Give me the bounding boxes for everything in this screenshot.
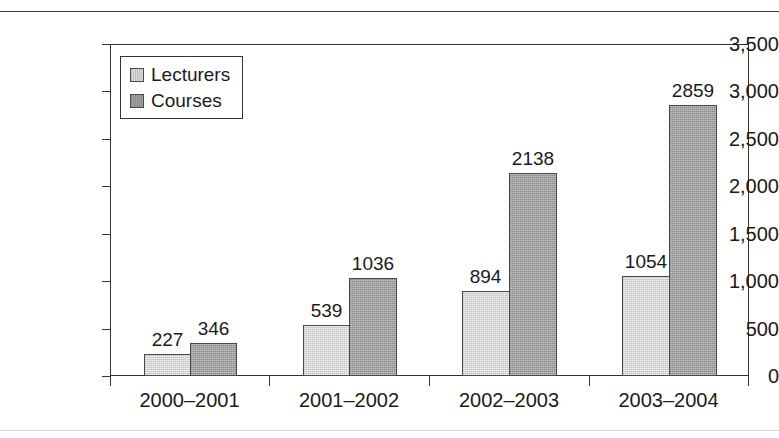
x-tick-mark-4 <box>748 376 749 386</box>
bar-courses-2002-2003[interactable] <box>509 173 557 376</box>
bar-value-lecturers-2003-2004: 1054 <box>615 252 677 272</box>
y-tick-mark-3500 <box>102 44 110 45</box>
legend-item-courses[interactable]: Courses <box>130 88 242 114</box>
chart-legend: Lecturers Courses <box>120 56 243 119</box>
bar-value-lecturers-2000-2001: 227 <box>142 330 193 350</box>
bar-value-lecturers-2001-2002: 539 <box>301 301 352 321</box>
x-axis-label-2002-2003: 2002–2003 <box>429 388 589 412</box>
y-tick-mark-500 <box>102 329 110 330</box>
y-tick-mark-2500 <box>102 139 110 140</box>
y-tick-mark-0 <box>102 376 110 377</box>
y-tick-mark-2000 <box>102 186 110 187</box>
y-tick-mark-1000 <box>102 281 110 282</box>
bar-lecturers-2002-2003[interactable] <box>462 291 510 376</box>
legend-label-lecturers: Lecturers <box>151 65 230 85</box>
figure-page: 3,500 3,000 2,500 2,000 1,500 1,000 500 … <box>0 0 779 438</box>
x-axis-label-2003-2004: 2003–2004 <box>589 388 748 412</box>
bar-lecturers-2003-2004[interactable] <box>622 276 670 376</box>
x-tick-mark-1 <box>269 376 270 386</box>
x-tick-mark-2 <box>429 376 430 386</box>
x-tick-mark-0 <box>110 376 111 386</box>
bar-lecturers-2000-2001[interactable] <box>144 354 191 376</box>
x-axis-label-2001-2002: 2001–2002 <box>269 388 429 412</box>
legend-item-lecturers[interactable]: Lecturers <box>130 62 242 88</box>
bar-lecturers-2001-2002[interactable] <box>303 325 350 376</box>
bar-value-courses-2002-2003: 2138 <box>502 149 564 169</box>
x-axis-label-2000-2001: 2000–2001 <box>110 388 269 412</box>
x-tick-mark-3 <box>589 376 590 386</box>
bar-courses-2003-2004[interactable] <box>669 105 717 376</box>
bar-value-courses-2001-2002: 1036 <box>342 254 404 274</box>
bar-value-courses-2000-2001: 346 <box>188 319 239 339</box>
bar-courses-2001-2002[interactable] <box>349 278 397 376</box>
y-tick-mark-1500 <box>102 234 110 235</box>
bar-courses-2000-2001[interactable] <box>190 343 237 376</box>
legend-label-courses: Courses <box>151 91 222 111</box>
legend-swatch-courses-icon <box>130 94 144 108</box>
legend-swatch-lecturers-icon <box>130 68 144 82</box>
bar-value-lecturers-2002-2003: 894 <box>460 267 511 287</box>
y-tick-mark-3000 <box>102 91 110 92</box>
grouped-bar-chart: 3,500 3,000 2,500 2,000 1,500 1,000 500 … <box>0 0 779 438</box>
bar-value-courses-2003-2004: 2859 <box>662 81 724 101</box>
y-tick-label-3500: 3,500 <box>701 34 779 54</box>
